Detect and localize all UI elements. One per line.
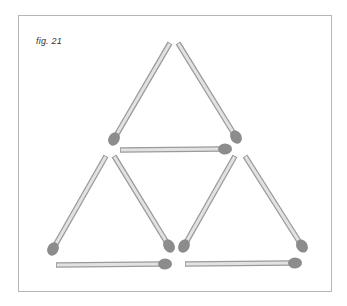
match-head: [218, 143, 232, 154]
matchstick-bottom-right-left: [176, 156, 235, 255]
matchstick-middle-horizontal: [120, 143, 232, 154]
matchstick-bottom-right-base: [185, 257, 302, 268]
matchstick-bottom-right-right: [245, 156, 310, 255]
match-head: [158, 258, 172, 269]
matchstick-top-left: [106, 43, 170, 148]
match-head: [288, 257, 302, 268]
matchstick-bottom-left-left: [45, 156, 106, 258]
matchstick-bottom-left-right: [114, 156, 177, 255]
matchstick-top-right: [178, 43, 244, 146]
matchstick-diagram: [0, 0, 347, 306]
matchstick-bottom-left-base: [56, 258, 172, 269]
